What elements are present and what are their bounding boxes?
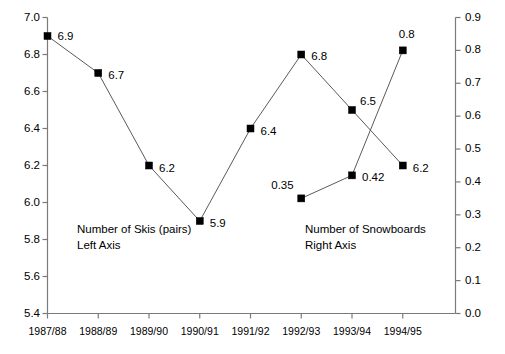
data-point-label-skis-1988-89: 6.7 <box>108 70 124 82</box>
left-axis-tick-6.4: 6.4 <box>6 123 40 135</box>
left-axis-tick-5.4: 5.4 <box>6 308 40 320</box>
snowboards-annotation-line2: Right Axis <box>305 238 426 254</box>
right-axis-tick-0.3: 0.3 <box>465 209 501 221</box>
data-marker <box>298 51 305 58</box>
data-marker <box>399 47 406 54</box>
skis-annotation-line1: Number of Skis (pairs) <box>77 222 191 238</box>
data-point-label-skis-1992-93: 6.8 <box>311 51 327 63</box>
skis-series-annotation: Number of Skis (pairs) Left Axis <box>77 222 191 253</box>
chart-plot-area <box>0 0 505 354</box>
right-axis-tick-0.6: 0.6 <box>465 110 501 122</box>
right-axis-tick-0.9: 0.9 <box>465 12 501 24</box>
skis-annotation-line2: Left Axis <box>77 238 191 254</box>
data-marker <box>349 172 356 179</box>
right-axis-tick-0.5: 0.5 <box>465 143 501 155</box>
data-point-label-board-1994-95: 0.8 <box>399 29 415 41</box>
left-axis-tick-7.0: 7.0 <box>6 12 40 24</box>
data-marker <box>349 107 356 114</box>
data-point-label-skis-1989-90: 6.2 <box>159 163 175 175</box>
left-axis-tick-6.0: 6.0 <box>6 197 40 209</box>
chart-container: 5.45.65.86.06.26.46.66.87.0 0.00.10.20.3… <box>0 0 505 354</box>
data-marker <box>196 218 203 225</box>
left-axis-tick-6.2: 6.2 <box>6 160 40 172</box>
right-axis-tick-0.0: 0.0 <box>465 308 501 320</box>
right-axis-tick-0.2: 0.2 <box>465 242 501 254</box>
data-marker <box>298 195 305 202</box>
left-axis-tick-6.8: 6.8 <box>6 49 40 61</box>
data-marker <box>44 33 51 40</box>
series-markers <box>44 33 406 225</box>
left-axis-tick-6.6: 6.6 <box>6 86 40 98</box>
data-marker <box>247 125 254 132</box>
data-point-label-skis-1990-91: 5.9 <box>210 218 226 230</box>
data-point-label-board-1993-94: 0.42 <box>362 172 384 184</box>
right-axis-tick-0.4: 0.4 <box>465 176 501 188</box>
axis-lines <box>48 18 456 314</box>
data-point-label-skis-1991-92: 6.4 <box>261 126 277 138</box>
data-marker <box>95 70 102 77</box>
snowboards-series-annotation: Number of Snowboards Right Axis <box>305 222 426 253</box>
left-axis-tick-5.6: 5.6 <box>6 271 40 283</box>
left-axis-tick-5.8: 5.8 <box>6 234 40 246</box>
right-axis-tick-0.8: 0.8 <box>465 44 501 56</box>
right-axis-tick-0.1: 0.1 <box>465 275 501 287</box>
snowboards-annotation-line1: Number of Snowboards <box>305 222 426 238</box>
x-axis-tick-1994-95: 1994/95 <box>370 326 436 337</box>
data-point-label-skis-1994-95: 6.2 <box>413 163 429 175</box>
data-point-label-skis-1993-94: 6.5 <box>360 96 376 108</box>
right-axis-tick-0.7: 0.7 <box>465 77 501 89</box>
data-marker <box>146 162 153 169</box>
series-lines <box>48 36 403 221</box>
data-marker <box>399 162 406 169</box>
data-point-label-board-1992-93: 0.35 <box>271 180 293 192</box>
data-point-label-skis-1987-88: 6.9 <box>58 31 74 43</box>
